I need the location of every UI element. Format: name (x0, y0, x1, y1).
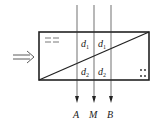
output-label-b: B (107, 109, 113, 120)
ray-arrowheads (75, 96, 113, 103)
output-label-a: A (72, 109, 80, 120)
dashed-lines-icon (45, 38, 59, 42)
label-upper-right: d1 (98, 38, 106, 50)
rays (77, 5, 111, 100)
label-lower-right: d2 (98, 66, 106, 78)
incoming-arrow-icon (13, 51, 34, 63)
output-label-m: M (88, 109, 98, 120)
optics-diagram: d1 d1 d2 d2 A M B (0, 0, 164, 129)
dots-icon (140, 69, 146, 77)
label-upper-left: d1 (81, 38, 89, 50)
label-lower-left: d2 (81, 66, 89, 78)
